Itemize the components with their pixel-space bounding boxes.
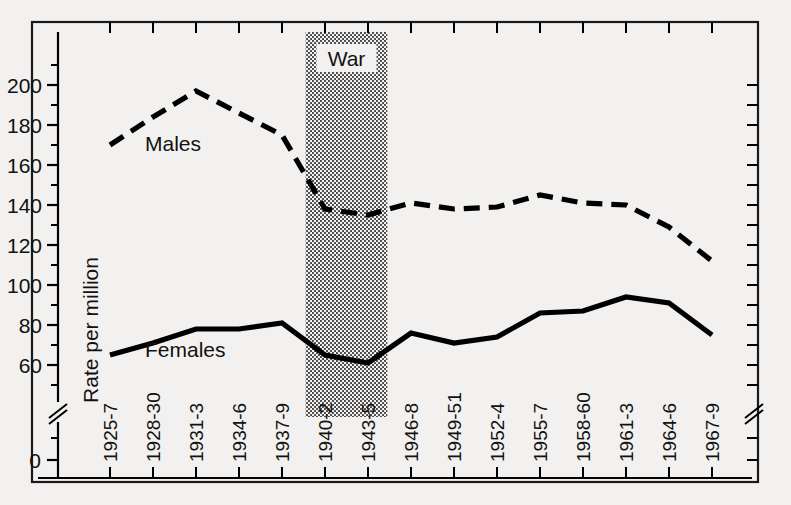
x-tick-label: 1955-7 xyxy=(530,403,551,462)
y-tick-label: 80 xyxy=(19,314,42,337)
x-tick-label: 1940-2 xyxy=(315,403,336,462)
x-tick-label: 1967-9 xyxy=(702,403,723,462)
x-tick-label: 1934-6 xyxy=(229,403,250,462)
x-tick-label: 1949-51 xyxy=(444,392,465,462)
chart-figure: 06080100120140160180200Rate per millionW… xyxy=(0,0,791,505)
y-axis-title: Rate per million xyxy=(79,257,102,403)
y-tick-label: 200 xyxy=(7,74,42,97)
line-chart: 06080100120140160180200Rate per millionW… xyxy=(0,0,791,505)
chart-frame xyxy=(32,22,758,482)
x-tick-label: 1928-30 xyxy=(143,392,164,462)
y-tick-label: 0 xyxy=(29,449,41,472)
chart-generated-layer: 06080100120140160180200Rate per millionW… xyxy=(7,22,763,478)
x-tick-label: 1943-5 xyxy=(358,403,379,462)
x-tick-label: 1952-4 xyxy=(487,402,508,462)
x-tick-label: 1961-3 xyxy=(616,403,637,462)
x-tick-label: 1964-6 xyxy=(659,403,680,462)
series-annotation-males: Males xyxy=(145,132,201,155)
x-tick-label: 1937-9 xyxy=(272,403,293,462)
x-tick-label: 1958-60 xyxy=(573,392,594,462)
x-tick-label: 1925-7 xyxy=(100,403,121,462)
series-annotation-females: Females xyxy=(145,338,226,361)
y-tick-label: 140 xyxy=(7,194,42,217)
series-line-males xyxy=(110,91,712,261)
y-tick-label: 60 xyxy=(19,354,42,377)
x-tick-label: 1946-8 xyxy=(401,403,422,462)
x-tick-label: 1931-3 xyxy=(186,403,207,462)
war-band-label: War xyxy=(328,47,366,70)
y-tick-label: 120 xyxy=(7,234,42,257)
y-tick-label: 100 xyxy=(7,274,42,297)
y-tick-label: 180 xyxy=(7,114,42,137)
y-tick-label: 160 xyxy=(7,154,42,177)
